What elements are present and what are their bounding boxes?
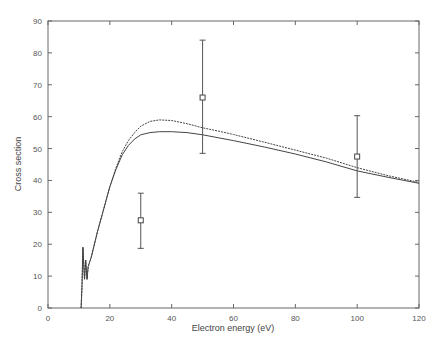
x-tick-label: 40 [167,314,176,323]
y-tick-label: 0 [38,304,43,313]
y-axis-label: Cross section [13,137,23,192]
y-tick-label: 10 [33,272,42,281]
x-tick-label: 60 [229,314,238,323]
plot-frame [48,21,419,308]
y-tick-label: 90 [33,17,42,26]
y-tick-label: 60 [33,113,42,122]
x-axis-label: Electron energy (eV) [192,323,275,333]
y-tick-label: 40 [33,176,42,185]
x-tick-label: 0 [46,314,51,323]
y-tick-label: 30 [33,208,42,217]
curve-upper [81,120,419,308]
data-point-marker [138,218,143,223]
plot-area: 0204060801001200102030405060708090 [33,17,426,323]
y-tick-label: 80 [33,49,42,58]
x-tick-label: 80 [291,314,300,323]
y-tick-label: 70 [33,81,42,90]
x-tick-label: 100 [350,314,364,323]
data-point-marker [355,154,360,159]
data-point-marker [200,95,205,100]
curve-lower [81,132,419,308]
x-tick-label: 20 [105,314,114,323]
x-tick-label: 120 [412,314,426,323]
y-tick-label: 50 [33,145,42,154]
cross-section-chart: 0204060801001200102030405060708090 Elect… [0,0,441,352]
y-tick-label: 20 [33,240,42,249]
